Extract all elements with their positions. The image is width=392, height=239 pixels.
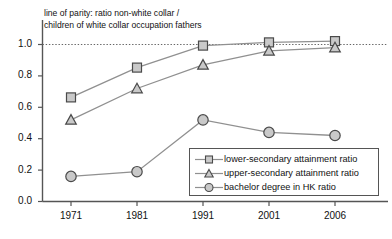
data-point-circle-1981 [132, 167, 142, 177]
y-tick-label-2: 0.4 [6, 132, 32, 143]
legend-item-lower-secondary[interactable]: lower-secondary attainment ratio [194, 152, 374, 166]
legend-circle-icon [194, 181, 224, 194]
legend-triangle-icon [194, 167, 224, 180]
markers-upper-secondary [66, 42, 341, 124]
data-point-square-1991 [199, 41, 208, 50]
x-tick-label-2006: 2006 [315, 210, 355, 221]
legend-label-lower-secondary: lower-secondary attainment ratio [224, 154, 357, 164]
y-tick-label-1: 0.2 [6, 164, 32, 175]
parity-annotation-line1: line of parity: ratio non-white collar / [44, 8, 202, 20]
legend-item-bachelor-degree[interactable]: bachelor degree in HK ratio [194, 180, 374, 194]
chart-container: line of parity: ratio non-white collar /… [0, 0, 392, 239]
data-point-square-1981 [133, 63, 142, 72]
x-tick-label-1991: 1991 [183, 210, 223, 221]
data-point-triangle-1971 [66, 115, 77, 125]
y-tick-label-0: 0.0 [6, 195, 32, 206]
data-point-circle-2006 [330, 130, 340, 140]
data-point-circle-1971 [66, 171, 76, 181]
y-tick-label-4: 0.8 [6, 69, 32, 80]
parity-annotation: line of parity: ratio non-white collar /… [44, 8, 202, 31]
x-tick-label-1981: 1981 [117, 210, 157, 221]
legend-item-upper-secondary[interactable]: upper-secondary attainment ratio [194, 166, 374, 180]
data-point-circle-2001 [264, 127, 274, 137]
legend-label-bachelor-degree: bachelor degree in HK ratio [224, 182, 336, 192]
data-point-triangle-1981 [132, 83, 143, 93]
parity-annotation-line2: children of white collar occupation fath… [44, 20, 202, 32]
data-point-circle-1991 [198, 115, 208, 125]
x-tick-label-2001: 2001 [249, 210, 289, 221]
y-tick-label-5: 1.0 [6, 38, 32, 49]
y-tick-label-3: 0.6 [6, 101, 32, 112]
legend-label-upper-secondary: upper-secondary attainment ratio [224, 168, 359, 178]
x-tick-label-1971: 1971 [51, 210, 91, 221]
legend-square-icon [194, 153, 224, 166]
legend: lower-secondary attainment ratio upper-s… [189, 148, 379, 196]
data-point-square-1971 [67, 93, 76, 102]
plot-area [0, 0, 392, 239]
